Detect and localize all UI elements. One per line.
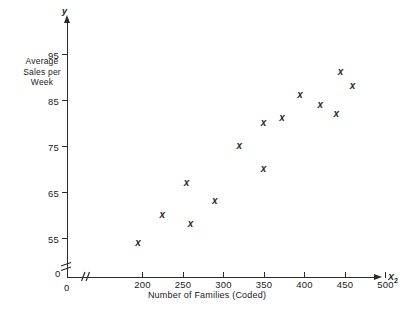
y-axis-tick-mark [62,100,68,101]
x-axis-tick: 450 [345,272,346,278]
y-axis-caption: Average Sales per Week [14,56,70,88]
data-point-marker: x [261,164,267,174]
data-point-marker: x [212,196,218,206]
x-axis-tick-label: 350 [256,279,272,290]
x-axis-break-icon [78,270,92,284]
y-axis-caption-line-3: Week [14,77,70,88]
x-axis-tick-mark [345,272,346,278]
x-axis-tick-label: 200 [134,279,150,290]
x-axis-tick-mark [223,272,224,278]
data-point-marker: x [279,113,285,123]
x-axis-tick-mark [183,272,184,278]
x-axis-tick-mark [304,272,305,278]
data-point-marker: x [350,81,356,91]
y-axis-tick-label: 65 [48,187,59,198]
x-axis-tick-mark [264,272,265,278]
y-axis-tick: 75 [62,146,68,147]
data-point-marker: x [188,219,194,229]
y-axis-tick: 65 [62,192,68,193]
x-axis-tick: 250 [183,272,184,278]
y-axis-tick: 95 [62,54,68,55]
data-point-marker: x [236,141,242,151]
x-axis-tick-label: 300 [215,279,231,290]
data-point-marker: x [338,67,344,77]
data-point-marker: x [159,210,165,220]
data-point-marker: x [334,109,340,119]
y-axis-tick-mark [62,238,68,239]
x-axis-tick-mark [142,272,143,278]
data-point-marker: x [317,100,323,110]
y-axis-tick-mark [62,192,68,193]
y-axis-caption-line-2: Sales per [14,67,70,78]
data-point-marker: x [135,238,141,248]
x-axis-tick-label: 250 [175,279,191,290]
y-axis-symbol-label: y [62,6,67,16]
x-axis-caption: Number of Families (Coded) [0,290,414,300]
x-axis-tick: 300 [223,272,224,278]
data-point-marker: x [297,90,303,100]
x-axis-tick-mark [385,272,386,278]
y-axis-arrow-icon [64,15,70,23]
y-axis-tick-mark [62,54,68,55]
x-axis-tick-label: 400 [296,279,312,290]
y-axis-tick: 85 [62,100,68,101]
data-point-marker: x [184,178,190,188]
x-axis-line [67,277,377,278]
x-axis-symbol-subscript: 2 [394,277,398,284]
x-axis-tick: 350 [264,272,265,278]
y-axis-break-icon [60,259,75,271]
scatter-plot-figure: 0 0 y X2 Average Sales per Week Number o… [0,0,414,310]
data-point-marker: x [261,118,267,128]
x-axis-tick: 400 [304,272,305,278]
x-axis-tick: 500 [385,272,386,278]
y-axis-tick-label: 85 [48,95,59,106]
x-axis-tick-label: 500 [377,279,393,290]
y-axis-tick-label: 75 [48,141,59,152]
y-axis-tick: 55 [62,238,68,239]
y-axis-tick-label: 95 [48,49,59,60]
y-axis-caption-line-1: Average [14,56,70,67]
y-origin-label: 0 [55,268,60,279]
y-axis-tick-mark [62,146,68,147]
x-axis-tick-label: 450 [337,279,353,290]
y-axis-tick-label: 55 [48,233,59,244]
x-axis-tick: 200 [142,272,143,278]
